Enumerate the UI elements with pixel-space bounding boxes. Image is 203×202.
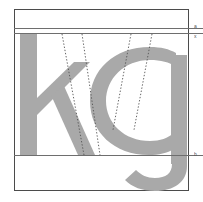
x-height-line-label: x (194, 33, 203, 39)
ascender-line-label: a (194, 23, 203, 29)
x-height-line (14, 33, 203, 34)
specimen-frame (14, 9, 189, 191)
ascender-line (14, 28, 203, 29)
baseline-line (14, 155, 203, 156)
specimen-figure: a x b (0, 0, 203, 202)
baseline-line-label: b (194, 151, 203, 157)
